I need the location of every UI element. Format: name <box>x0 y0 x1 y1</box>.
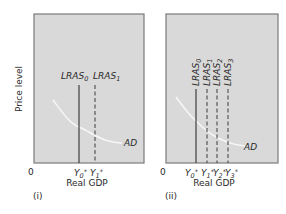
y-axis-label: Price level <box>14 66 24 112</box>
panel-i-label: (i) <box>33 191 43 201</box>
panel-ii-label: (ii) <box>165 191 177 201</box>
panel-ii: LRAS0 LRAS1 LRAS2 LRAS3 AD 0 Y0* Y1* Y2*… <box>160 14 278 201</box>
origin-label: 0 <box>28 167 34 177</box>
origin-label: 0 <box>160 167 166 177</box>
panel-i: LRAS0 LRAS1 AD 0 Y0* Y1* Real GDP (i) <box>28 14 144 201</box>
lras-ad-diagram: Price level LRAS0 LRAS1 AD 0 Y0* Y1* Rea… <box>0 0 286 214</box>
ad-label: AD <box>123 138 137 148</box>
ad-label: AD <box>243 142 257 152</box>
x-axis-label-ii: Real GDP <box>193 178 235 188</box>
x-axis-label-i: Real GDP <box>66 178 108 188</box>
